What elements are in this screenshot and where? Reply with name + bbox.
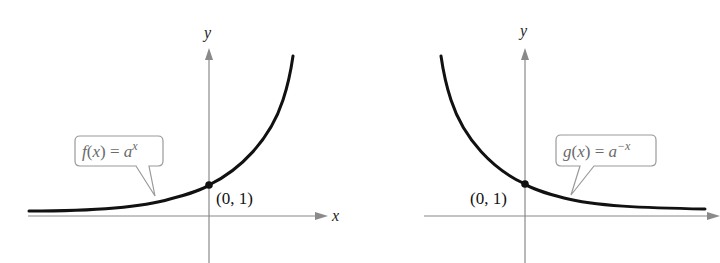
left-point-label: (0, 1)	[216, 189, 253, 208]
right-curve-g	[441, 56, 705, 209]
left-base: a	[124, 142, 133, 161]
right-intercept-point	[521, 180, 529, 188]
left-intercept-point	[205, 181, 213, 189]
right-fn-name: g	[563, 142, 572, 161]
right-equals: =	[595, 142, 605, 161]
left-x-axis-label: x	[331, 207, 339, 224]
right-y-axis-arrow-icon	[521, 48, 529, 60]
right-point-label: (0, 1)	[470, 189, 507, 208]
left-callout-text: f(x) = ax	[82, 139, 138, 161]
left-y-axis-label: y	[202, 24, 212, 42]
left-exponent: x	[131, 139, 138, 153]
right-callout: g(x) = a−x	[556, 135, 656, 195]
right-base: a	[608, 142, 617, 161]
exponential-graphs-figure: y x (0, 1) f(x) = ax y (0, 1)	[0, 0, 720, 263]
right-exponent: −x	[617, 139, 631, 153]
left-y-axis-arrow-icon	[205, 48, 213, 60]
right-graph: y (0, 1) g(x) = a−x	[424, 22, 720, 263]
left-callout: f(x) = ax	[75, 136, 163, 196]
left-graph: y x (0, 1) f(x) = ax	[28, 24, 339, 263]
right-y-axis-label: y	[518, 22, 528, 40]
right-x-axis-arrow-icon	[707, 212, 720, 220]
left-curve-f	[29, 56, 293, 211]
left-x-axis-arrow-icon	[315, 212, 328, 220]
left-equals: =	[110, 142, 120, 161]
